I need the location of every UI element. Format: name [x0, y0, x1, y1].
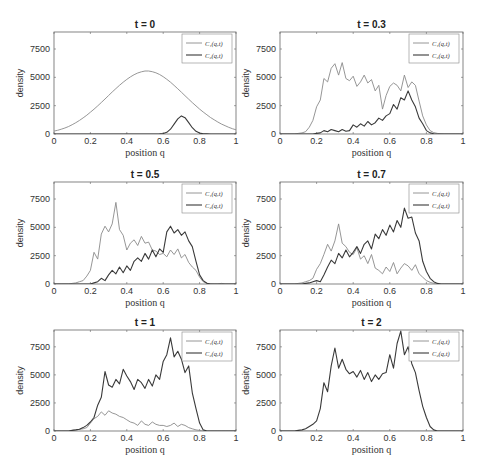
x-tick-label: 0: [277, 286, 282, 296]
panel-title: t = 0.3: [357, 19, 386, 30]
x-tick-label: 0.4: [347, 286, 360, 296]
y-tick-label: 7500: [30, 194, 50, 204]
x-tick-label: 1: [233, 433, 238, 443]
y-tick-label: 0: [45, 279, 50, 289]
x-tick-label: 0.2: [310, 136, 323, 146]
y-tick-label: 2500: [30, 398, 50, 408]
legend-label: C₁(q,t): [205, 338, 223, 346]
legend-box: [182, 184, 232, 213]
legend-box: [409, 332, 459, 361]
legend-label: C₁(q,t): [432, 40, 450, 48]
y-axis-label: density: [15, 218, 25, 247]
y-tick-label: 2500: [256, 398, 276, 408]
legend-label: C₁(q,t): [205, 190, 223, 198]
y-tick-label: 2500: [256, 251, 276, 261]
x-tick-label: 0: [277, 433, 282, 443]
y-tick-label: 5000: [256, 222, 276, 232]
y-tick-label: 0: [45, 129, 50, 139]
x-tick-label: 0.2: [84, 433, 97, 443]
x-tick-label: 0.2: [310, 286, 323, 296]
x-tick-label: 0.6: [384, 433, 397, 443]
chart-panel: t = 0.300.20.40.60.810250050007500positi…: [241, 19, 466, 158]
y-tick-label: 7500: [256, 44, 276, 54]
x-tick-label: 1: [460, 433, 465, 443]
legend-label: C₁(q,t): [432, 338, 450, 346]
x-tick-label: 0.8: [193, 136, 206, 146]
x-tick-label: 0.2: [84, 286, 97, 296]
chart-panel: t = 0.500.20.40.60.810250050007500positi…: [15, 169, 239, 308]
chart-panel: t = 000.20.40.60.810250050007500position…: [15, 19, 239, 158]
y-tick-label: 2500: [256, 101, 276, 111]
legend-box: [182, 332, 232, 361]
x-tick-label: 0.6: [157, 433, 170, 443]
y-tick-label: 5000: [30, 222, 50, 232]
y-tick-label: 7500: [256, 194, 276, 204]
legend-label: C₂(q,t): [205, 202, 223, 210]
x-tick-label: 0.4: [121, 286, 134, 296]
y-axis-label: density: [15, 366, 25, 395]
legend-label: C₂(q,t): [432, 202, 450, 210]
panel-title: t = 0.7: [357, 169, 386, 180]
x-tick-label: 0.4: [347, 433, 360, 443]
x-tick-label: 0.2: [310, 433, 323, 443]
x-tick-label: 0.2: [84, 136, 97, 146]
y-tick-label: 2500: [30, 251, 50, 261]
x-tick-label: 0.6: [157, 136, 170, 146]
x-tick-label: 1: [460, 136, 465, 146]
x-tick-label: 0: [277, 136, 282, 146]
x-tick-label: 1: [460, 286, 465, 296]
legend-label: C₁(q,t): [432, 190, 450, 198]
y-tick-label: 5000: [256, 72, 276, 82]
legend-label: C₂(q,t): [205, 52, 223, 60]
x-tick-label: 0.6: [384, 136, 397, 146]
x-tick-label: 0.4: [347, 136, 360, 146]
figure-canvas: t = 000.20.40.60.810250050007500position…: [0, 0, 480, 468]
y-tick-label: 7500: [30, 44, 50, 54]
y-tick-label: 2500: [30, 101, 50, 111]
x-tick-label: 0.8: [193, 286, 206, 296]
y-tick-label: 7500: [30, 342, 50, 352]
x-tick-label: 0.8: [420, 286, 433, 296]
x-tick-label: 0.8: [420, 433, 433, 443]
x-tick-label: 0.8: [193, 433, 206, 443]
chart-panel: t = 100.20.40.60.810250050007500position…: [15, 317, 239, 455]
x-axis-label: position q: [352, 147, 392, 158]
legend-box: [409, 34, 459, 63]
x-axis-label: position q: [125, 297, 165, 308]
y-tick-label: 5000: [30, 72, 50, 82]
y-axis-label: density: [15, 68, 25, 97]
legend-label: C₁(q,t): [205, 40, 223, 48]
x-tick-label: 0.4: [121, 136, 134, 146]
y-tick-label: 5000: [30, 370, 50, 380]
x-tick-label: 0: [51, 136, 56, 146]
y-axis-label: density: [241, 68, 251, 97]
x-tick-label: 1: [233, 136, 238, 146]
y-tick-label: 0: [271, 129, 276, 139]
x-axis-label: position q: [125, 444, 165, 455]
x-tick-label: 0: [51, 286, 56, 296]
x-axis-label: position q: [125, 147, 165, 158]
panel-title: t = 0.5: [131, 169, 160, 180]
y-tick-label: 7500: [256, 342, 276, 352]
y-axis-label: density: [241, 366, 251, 395]
legend-box: [409, 184, 459, 213]
chart-panel: t = 200.20.40.60.810250050007500position…: [241, 317, 466, 455]
panel-title: t = 1: [135, 317, 156, 328]
panel-title: t = 2: [361, 317, 382, 328]
y-tick-label: 0: [271, 279, 276, 289]
x-axis-label: position q: [352, 297, 392, 308]
legend-box: [182, 34, 232, 63]
panel-title: t = 0: [135, 19, 156, 30]
x-tick-label: 0.6: [384, 286, 397, 296]
chart-panel: t = 0.700.20.40.60.810250050007500positi…: [241, 169, 466, 308]
y-tick-label: 0: [271, 426, 276, 436]
x-tick-label: 0.6: [157, 286, 170, 296]
y-axis-label: density: [241, 218, 251, 247]
legend-label: C₂(q,t): [432, 350, 450, 358]
x-tick-label: 0: [51, 433, 56, 443]
x-axis-label: position q: [352, 444, 392, 455]
y-tick-label: 0: [45, 426, 50, 436]
legend-label: C₂(q,t): [432, 52, 450, 60]
x-tick-label: 0.4: [121, 433, 134, 443]
x-tick-label: 1: [233, 286, 238, 296]
